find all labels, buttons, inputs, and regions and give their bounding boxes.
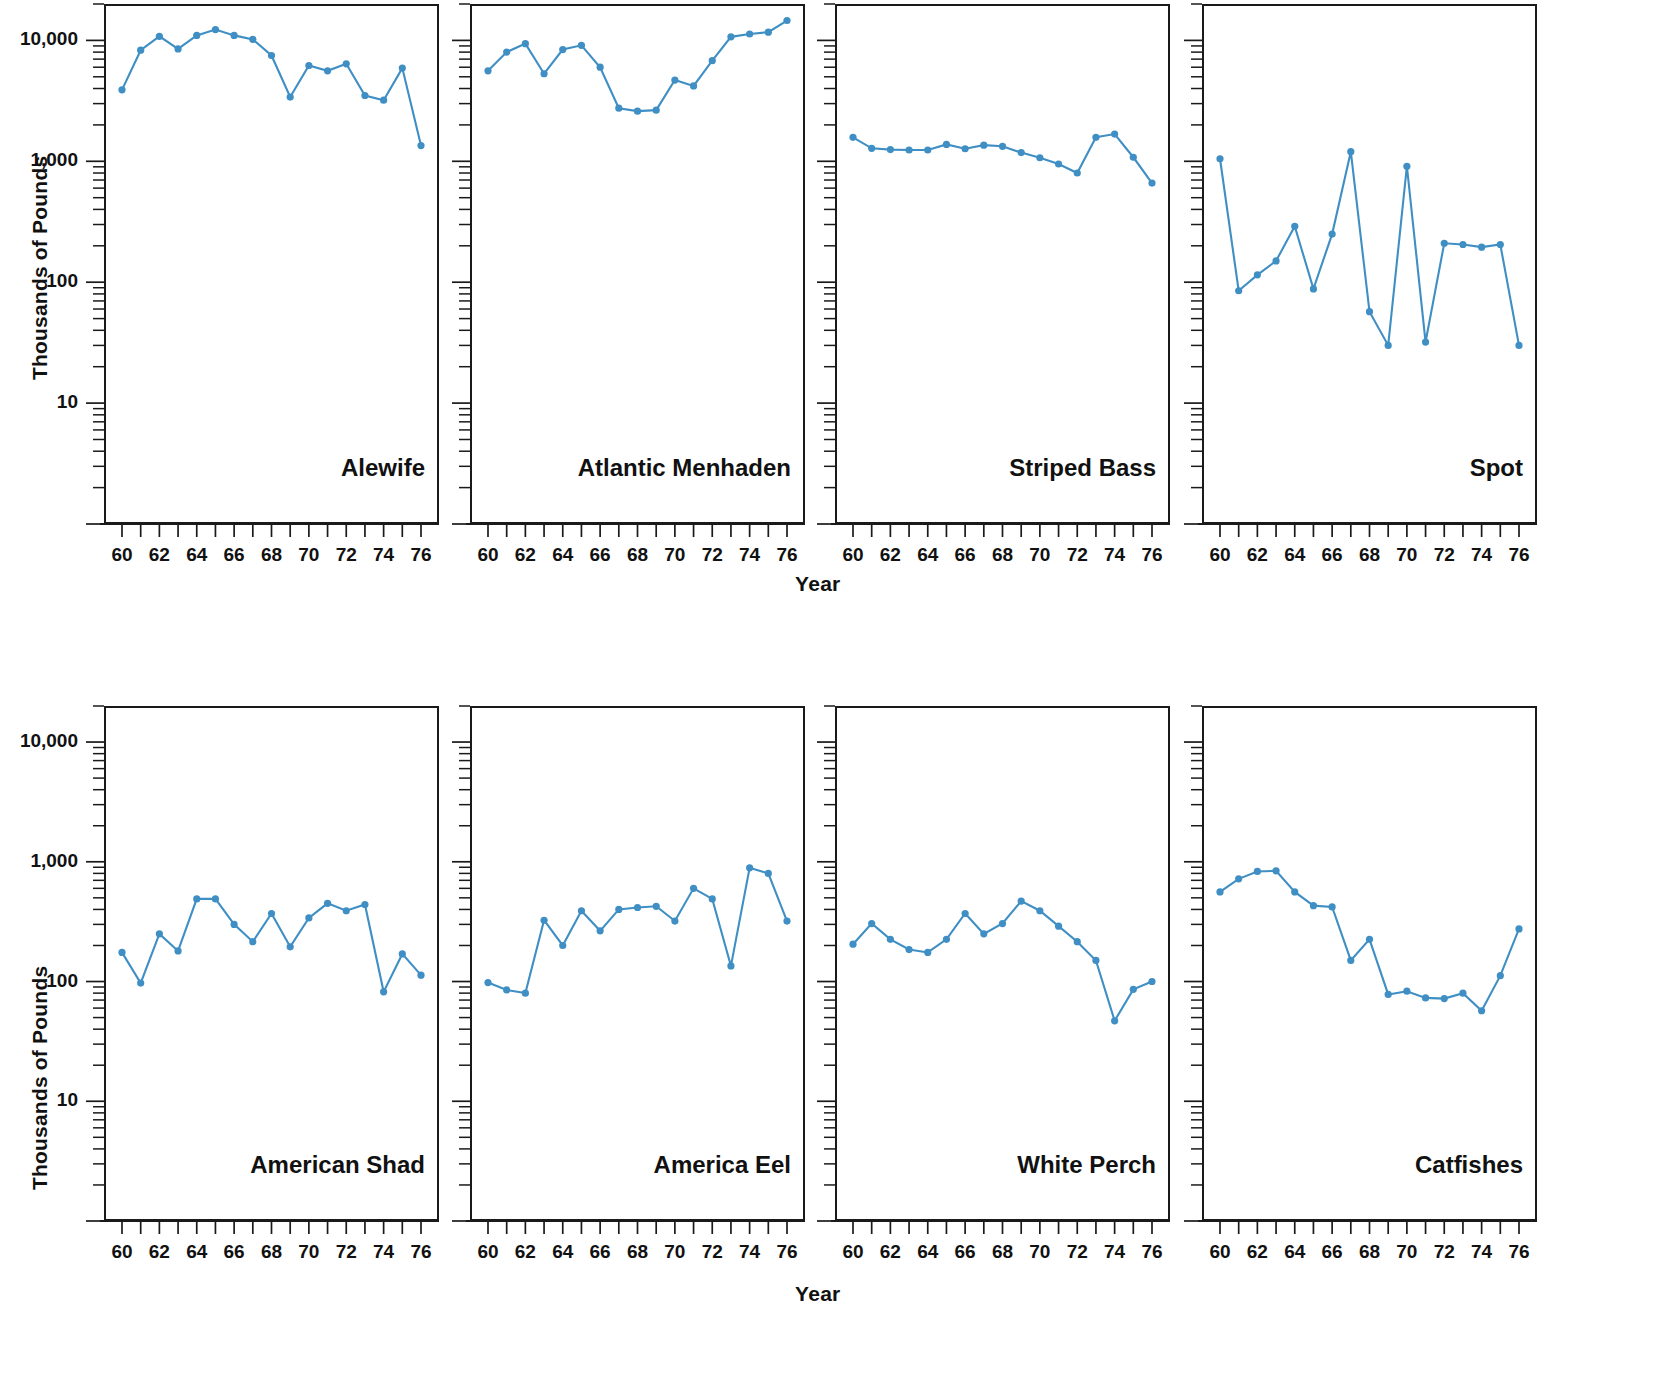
chart-panel-catfishes: 606264666870727476Catfishes: [1202, 706, 1537, 1341]
x-tick-label: 62: [139, 544, 179, 566]
series-line: [1220, 152, 1519, 346]
chart-panel-atlantic-menhaden: 606264666870727476Atlantic Menhaden: [470, 4, 805, 644]
x-tick-label: 68: [983, 544, 1023, 566]
y-tick-label: 1,000: [0, 850, 78, 872]
x-tick-label: 64: [177, 544, 217, 566]
panel-title-america-eel: America Eel: [654, 1151, 791, 1179]
data-point: [962, 910, 969, 917]
data-point: [1148, 978, 1155, 985]
x-tick-label: 68: [618, 1241, 658, 1263]
data-point: [1478, 1007, 1485, 1014]
plot-svg: [470, 706, 805, 1221]
x-tick-label: 66: [945, 544, 985, 566]
x-tick-label: 76: [1132, 1241, 1172, 1263]
data-point: [765, 29, 772, 36]
x-tick-label: 62: [505, 544, 545, 566]
data-point: [137, 47, 144, 54]
x-tick-label: 62: [505, 1241, 545, 1263]
data-point: [690, 82, 697, 89]
data-point: [1422, 994, 1429, 1001]
data-point: [324, 67, 331, 74]
x-tick-label: 64: [908, 1241, 948, 1263]
data-point: [578, 907, 585, 914]
data-point: [380, 988, 387, 995]
x-tick-label: 68: [1350, 544, 1390, 566]
panel-title-striped-bass: Striped Bass: [1009, 454, 1156, 482]
x-tick-label: 62: [870, 544, 910, 566]
x-tick-label: 64: [1275, 1241, 1315, 1263]
data-point: [671, 917, 678, 924]
plot-svg: [104, 706, 439, 1221]
data-point: [1111, 1017, 1118, 1024]
data-point: [1385, 342, 1392, 349]
data-point: [1497, 972, 1504, 979]
data-point: [1036, 154, 1043, 161]
data-point: [1422, 338, 1429, 345]
data-point: [305, 914, 312, 921]
x-tick-label: 74: [1462, 1241, 1502, 1263]
data-point: [1235, 875, 1242, 882]
x-tick-label: 72: [326, 1241, 366, 1263]
data-point: [249, 36, 256, 43]
x-tick-label: 66: [214, 1241, 254, 1263]
data-point: [118, 949, 125, 956]
x-tick-label: 66: [214, 544, 254, 566]
chart-panel-alewife: 10,0001,00010010606264666870727476Alewif…: [104, 4, 439, 644]
data-point: [1329, 230, 1336, 237]
data-point: [962, 145, 969, 152]
data-point: [578, 42, 585, 49]
data-point: [305, 62, 312, 69]
x-tick-label: 76: [1499, 1241, 1539, 1263]
panel-title-catfishes: Catfishes: [1415, 1151, 1523, 1179]
x-tick-label: 68: [618, 544, 658, 566]
data-point: [1018, 897, 1025, 904]
data-point: [746, 864, 753, 871]
x-tick-label: 76: [401, 1241, 441, 1263]
x-tick-label: 72: [692, 1241, 732, 1263]
data-point: [727, 33, 734, 40]
data-point: [765, 870, 772, 877]
x-tick-label: 70: [1387, 1241, 1427, 1263]
fish-landings-small-multiples-figure: Thousands of Pounds Year 10,0001,0001001…: [0, 0, 1663, 1380]
data-point: [156, 33, 163, 40]
x-tick-label: 74: [730, 1241, 770, 1263]
x-tick-label: 64: [1275, 544, 1315, 566]
data-point: [361, 901, 368, 908]
data-point: [943, 936, 950, 943]
data-point: [231, 32, 238, 39]
data-point: [1130, 986, 1137, 993]
data-point: [484, 979, 491, 986]
x-tick-label: 72: [1424, 544, 1464, 566]
x-tick-label: 66: [1312, 544, 1352, 566]
data-point: [1148, 180, 1155, 187]
data-point: [343, 907, 350, 914]
data-point: [746, 30, 753, 37]
data-point: [559, 46, 566, 53]
data-point: [484, 67, 491, 74]
data-point: [1235, 287, 1242, 294]
x-tick-label: 60: [833, 1241, 873, 1263]
data-point: [559, 942, 566, 949]
data-point: [156, 930, 163, 937]
data-point: [540, 917, 547, 924]
data-point: [1459, 241, 1466, 248]
data-point: [137, 980, 144, 987]
data-point: [1111, 130, 1118, 137]
data-point: [653, 903, 660, 910]
panel-title-american-shad: American Shad: [250, 1151, 425, 1179]
data-point: [634, 904, 641, 911]
y-tick-label: 10,000: [0, 28, 78, 50]
y-axis-label-bottom: Thousands of Pounds: [28, 966, 52, 1190]
data-point: [597, 64, 604, 71]
x-tick-label: 66: [1312, 1241, 1352, 1263]
x-tick-label: 74: [730, 544, 770, 566]
x-tick-label: 60: [1200, 544, 1240, 566]
data-point: [943, 141, 950, 148]
x-tick-label: 76: [767, 544, 807, 566]
x-tick-label: 70: [289, 544, 329, 566]
data-point: [1074, 938, 1081, 945]
chart-panel-white-perch: 606264666870727476White Perch: [835, 706, 1170, 1341]
plot-svg: [1202, 706, 1537, 1221]
x-tick-label: 70: [289, 1241, 329, 1263]
data-point: [1310, 902, 1317, 909]
